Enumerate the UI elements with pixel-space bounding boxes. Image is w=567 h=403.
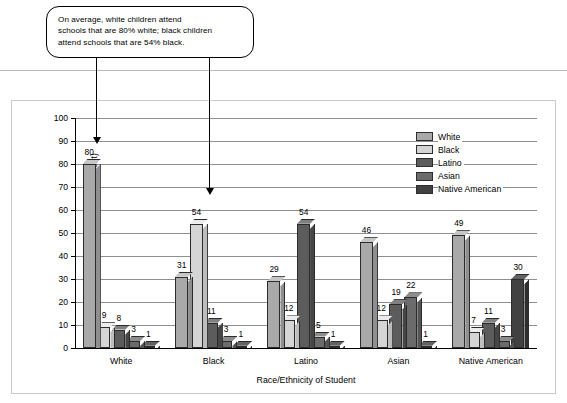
y-axis-tick (71, 279, 76, 280)
bar-side-face (465, 235, 470, 348)
header-divider (0, 70, 567, 71)
bar-value-label: 12 (377, 303, 386, 313)
legend-swatch (416, 185, 433, 194)
callout-arrow-right (209, 58, 210, 195)
y-axis-tick (71, 118, 76, 119)
bar-value-label: 3 (501, 324, 506, 334)
bar-value-label: 31 (177, 260, 186, 270)
y-axis-tick (71, 302, 76, 303)
bar-value-label: 80 (85, 147, 94, 157)
bar-side-face (524, 279, 529, 348)
bar-front-face (511, 279, 524, 348)
legend-swatch (416, 145, 433, 154)
y-axis-tick-label: 50 (58, 228, 68, 238)
x-axis-line (75, 348, 537, 349)
bar-side-face (140, 341, 145, 348)
bar-side-face (203, 224, 208, 348)
callout-line-2: schools that are 80% white; black childr… (58, 25, 244, 36)
x-axis-tick-label: Latino (294, 356, 318, 366)
bar-value-label: 29 (269, 264, 278, 274)
y-axis-tick (71, 210, 76, 211)
legend-item: Latino (416, 156, 503, 169)
bar-value-label: 54 (299, 207, 308, 217)
bar-value-label: 49 (454, 218, 463, 228)
bar-value-label: 1 (423, 329, 428, 339)
legend-swatch (416, 158, 433, 167)
bar-side-face (188, 277, 193, 348)
y-axis-tick-label: 30 (58, 274, 68, 284)
bar: 30 (511, 279, 524, 348)
bar-side-face (280, 281, 285, 348)
bar-value-label: 3 (224, 324, 229, 334)
y-axis-tick-label: 10 (58, 320, 68, 330)
bar-value-label: 5 (316, 320, 321, 330)
y-axis-tick-label: 20 (58, 297, 68, 307)
legend-item: Asian (416, 170, 503, 183)
bar-side-face (417, 297, 422, 348)
legend: WhiteBlackLatinoAsianNative American (416, 130, 503, 196)
bar-top-outline (297, 219, 315, 224)
y-axis-tick (71, 141, 76, 142)
legend-item: White (416, 130, 503, 143)
bar-top-outline (482, 318, 500, 323)
bar-top-outline (190, 219, 208, 224)
y-axis-tick-label: 0 (63, 343, 68, 353)
bar-value-label: 46 (362, 225, 371, 235)
bar-side-face (125, 330, 130, 348)
y-axis-tick-label: 80 (58, 159, 68, 169)
y-axis-tick-label: 90 (58, 136, 68, 146)
gridline (76, 118, 537, 119)
figure-root: On average, white children attend school… (0, 0, 567, 403)
bar-value-label: 9 (102, 310, 107, 320)
y-axis-tick (71, 187, 76, 188)
bar-value-label: 19 (391, 287, 400, 297)
bar-value-label: 30 (513, 262, 522, 272)
plot-area: 0102030405060708090100 80983131541131291… (75, 118, 537, 348)
bar-value-label: 22 (406, 280, 415, 290)
y-axis-tick-label: 100 (54, 113, 68, 123)
bar-value-label: 11 (484, 306, 493, 316)
bar-value-label: 54 (192, 207, 201, 217)
y-axis-tick (71, 348, 76, 349)
callout-line-1: On average, white children attend (58, 14, 244, 25)
x-axis-tick-label: Asian (387, 356, 409, 366)
bar-front-face (267, 281, 280, 348)
bar-side-face (495, 323, 500, 348)
y-axis-tick-label: 40 (58, 251, 68, 261)
bar-side-face (373, 242, 378, 348)
callout-box: On average, white children attend school… (46, 6, 254, 58)
bar-value-label: 1 (238, 329, 243, 339)
callout-line-3: attend schools that are 54% black. (58, 37, 244, 48)
x-axis-tick-label: Black (203, 356, 225, 366)
bar-front-face (175, 277, 188, 348)
y-axis-tick (71, 256, 76, 257)
bar-side-face (310, 224, 315, 348)
legend-item: Native American (416, 183, 503, 196)
bar-value-label: 1 (146, 329, 151, 339)
bar-value-label: 1 (331, 329, 336, 339)
y-axis-tick (71, 164, 76, 165)
bar-top-outline (360, 237, 378, 242)
bar-side-face (218, 323, 223, 348)
bar-value-label: 12 (284, 303, 293, 313)
x-axis-title: Race/Ethnicity of Student (75, 375, 537, 385)
bar: 80 (83, 164, 96, 348)
legend-item-label: Native American (438, 184, 503, 194)
bar-side-face (402, 304, 407, 348)
bar: 46 (360, 242, 373, 348)
y-axis-tick (71, 233, 76, 234)
callout-arrow-left (96, 58, 97, 144)
legend-item-label: Latino (438, 158, 464, 168)
bar-value-label: 11 (207, 306, 216, 316)
legend-swatch (416, 132, 433, 141)
bar-side-face (325, 337, 330, 349)
bar-top-outline (267, 276, 285, 281)
bar: 29 (267, 281, 280, 348)
bar: 31 (175, 277, 188, 348)
bar-value-label: 7 (471, 315, 476, 325)
bar-side-face (96, 164, 101, 348)
legend-item-label: White (438, 132, 462, 142)
bar-front-face (83, 164, 96, 348)
x-axis-tick-label: Native American (459, 356, 523, 366)
bar-side-face (232, 341, 237, 348)
